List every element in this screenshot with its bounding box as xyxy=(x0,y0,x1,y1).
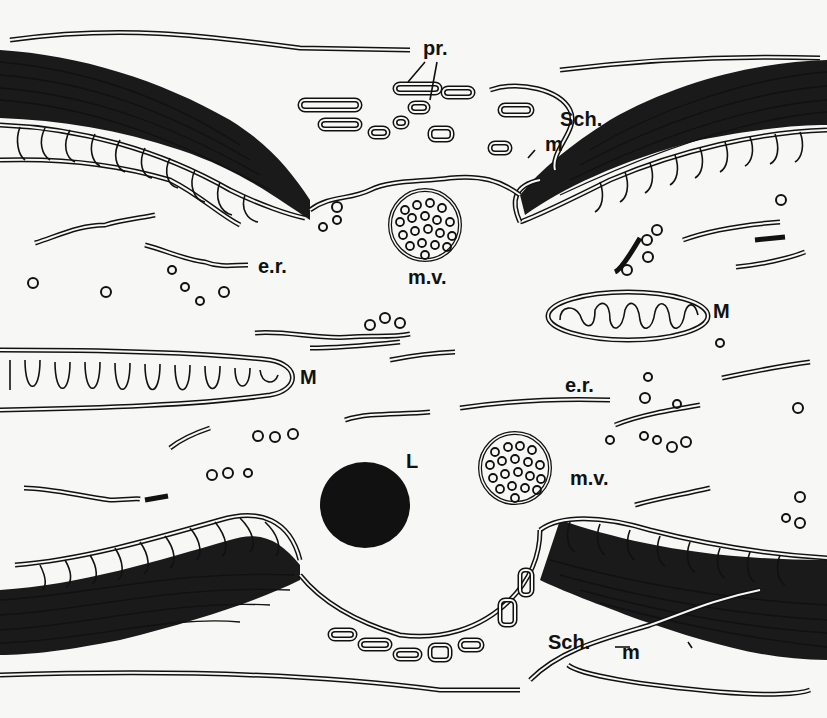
mitochondrion-right xyxy=(548,292,708,340)
label-schwann-top: Sch. xyxy=(560,109,602,129)
bottom-node-processes xyxy=(300,530,540,660)
microvesicle-bundle-top xyxy=(390,190,460,260)
label-mv-bottom: m.v. xyxy=(570,468,609,488)
lipid-droplet xyxy=(320,462,410,548)
myelin-top-left xyxy=(0,50,310,225)
leader-lines xyxy=(688,642,692,648)
top-outer-membrane xyxy=(10,32,820,70)
microvesicle-bundle-bottom xyxy=(480,433,550,503)
label-processes: pr. xyxy=(423,38,447,58)
figure-drawing: .dbl{fill:none;stroke:#111;stroke-width:… xyxy=(0,0,827,718)
label-mv-top: m.v. xyxy=(408,267,447,287)
mitochondrion-left xyxy=(0,350,293,410)
label-mitochondrion-right: M xyxy=(713,301,730,321)
label-er-left: e.r. xyxy=(258,256,287,276)
label-m-bottom: m xyxy=(622,642,640,662)
label-er-center: e.r. xyxy=(565,375,594,395)
label-lipid: L xyxy=(406,451,418,471)
label-mitochondrion-left: M xyxy=(300,367,317,387)
myelin-bottom-right xyxy=(530,519,827,694)
small-vesicles xyxy=(28,195,805,528)
label-schwann-bottom: Sch. xyxy=(548,632,590,652)
myelin-bottom-left xyxy=(0,516,520,690)
label-m-top: m xyxy=(545,134,563,154)
